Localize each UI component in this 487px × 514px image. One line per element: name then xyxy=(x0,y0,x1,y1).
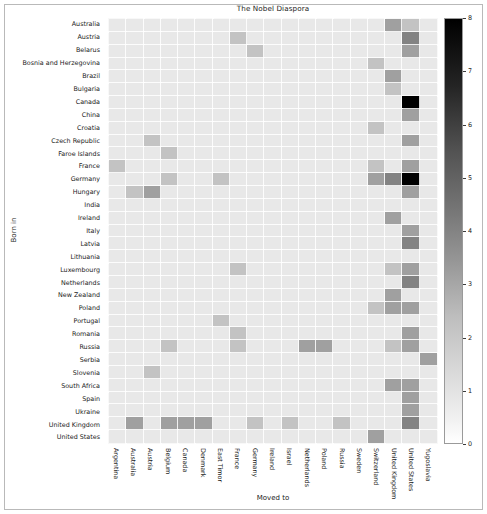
heatmap-cell[interactable] xyxy=(368,96,385,109)
heatmap-cell[interactable] xyxy=(195,430,212,443)
heatmap-cell[interactable] xyxy=(368,135,385,148)
heatmap-cell[interactable] xyxy=(333,327,350,340)
heatmap-cell[interactable] xyxy=(299,353,316,366)
heatmap-cell[interactable] xyxy=(126,58,143,71)
heatmap-cell[interactable] xyxy=(351,32,368,45)
heatmap-cell[interactable] xyxy=(144,109,161,122)
heatmap-cell[interactable] xyxy=(333,289,350,302)
heatmap-cell[interactable] xyxy=(385,340,402,353)
heatmap-cell[interactable] xyxy=(264,109,281,122)
heatmap-cell[interactable] xyxy=(299,263,316,276)
heatmap-cell[interactable] xyxy=(420,417,437,430)
heatmap-cell[interactable] xyxy=(144,366,161,379)
heatmap-cell[interactable] xyxy=(230,340,247,353)
heatmap-cell[interactable] xyxy=(178,379,195,392)
heatmap-cell[interactable] xyxy=(109,417,126,430)
heatmap-cell[interactable] xyxy=(333,58,350,71)
heatmap-cell[interactable] xyxy=(385,83,402,96)
heatmap-cell[interactable] xyxy=(161,32,178,45)
heatmap-cell[interactable] xyxy=(213,392,230,405)
heatmap-cell[interactable] xyxy=(420,122,437,135)
heatmap-cell[interactable] xyxy=(178,237,195,250)
heatmap-cell[interactable] xyxy=(402,430,419,443)
heatmap-cell[interactable] xyxy=(109,45,126,58)
heatmap-cell[interactable] xyxy=(109,340,126,353)
heatmap-cell[interactable] xyxy=(109,109,126,122)
heatmap-cell[interactable] xyxy=(230,353,247,366)
heatmap-cell[interactable] xyxy=(316,302,333,315)
heatmap-cell[interactable] xyxy=(178,70,195,83)
heatmap-cell[interactable] xyxy=(195,58,212,71)
heatmap-cell[interactable] xyxy=(230,276,247,289)
heatmap-cell[interactable] xyxy=(247,417,264,430)
heatmap-cell[interactable] xyxy=(316,276,333,289)
heatmap-cell[interactable] xyxy=(420,199,437,212)
heatmap-cell[interactable] xyxy=(333,250,350,263)
heatmap-cell[interactable] xyxy=(230,70,247,83)
heatmap-cell[interactable] xyxy=(264,186,281,199)
heatmap-cell[interactable] xyxy=(282,32,299,45)
heatmap-cell[interactable] xyxy=(351,237,368,250)
heatmap-cell[interactable] xyxy=(351,173,368,186)
heatmap-cell[interactable] xyxy=(264,135,281,148)
heatmap-cell[interactable] xyxy=(247,392,264,405)
heatmap-cell[interactable] xyxy=(195,199,212,212)
heatmap-cell[interactable] xyxy=(178,122,195,135)
heatmap-cell[interactable] xyxy=(351,276,368,289)
heatmap-cell[interactable] xyxy=(282,404,299,417)
heatmap-cell[interactable] xyxy=(161,417,178,430)
heatmap-cell[interactable] xyxy=(264,199,281,212)
heatmap-cell[interactable] xyxy=(178,327,195,340)
heatmap-cell[interactable] xyxy=(282,392,299,405)
heatmap-cell[interactable] xyxy=(213,160,230,173)
heatmap-cell[interactable] xyxy=(420,186,437,199)
heatmap-cell[interactable] xyxy=(316,58,333,71)
heatmap-cell[interactable] xyxy=(402,340,419,353)
heatmap-cell[interactable] xyxy=(109,32,126,45)
heatmap-cell[interactable] xyxy=(282,58,299,71)
heatmap-cell[interactable] xyxy=(333,392,350,405)
heatmap-cell[interactable] xyxy=(126,186,143,199)
heatmap-cell[interactable] xyxy=(178,199,195,212)
heatmap-cell[interactable] xyxy=(247,173,264,186)
heatmap-cell[interactable] xyxy=(402,392,419,405)
heatmap-cell[interactable] xyxy=(247,366,264,379)
heatmap-cell[interactable] xyxy=(178,147,195,160)
heatmap-cell[interactable] xyxy=(195,250,212,263)
heatmap-cell[interactable] xyxy=(195,379,212,392)
heatmap-cell[interactable] xyxy=(368,212,385,225)
heatmap-cell[interactable] xyxy=(299,19,316,32)
heatmap-cell[interactable] xyxy=(402,237,419,250)
heatmap-cell[interactable] xyxy=(299,327,316,340)
heatmap-cell[interactable] xyxy=(144,32,161,45)
heatmap-cell[interactable] xyxy=(333,379,350,392)
heatmap-cell[interactable] xyxy=(195,147,212,160)
heatmap-cell[interactable] xyxy=(385,417,402,430)
heatmap-cell[interactable] xyxy=(126,147,143,160)
heatmap-cell[interactable] xyxy=(402,225,419,238)
heatmap-cell[interactable] xyxy=(161,315,178,328)
heatmap-cell[interactable] xyxy=(161,199,178,212)
heatmap-cell[interactable] xyxy=(368,340,385,353)
heatmap-cell[interactable] xyxy=(282,379,299,392)
heatmap-cell[interactable] xyxy=(247,109,264,122)
heatmap-cell[interactable] xyxy=(368,430,385,443)
heatmap-cell[interactable] xyxy=(195,302,212,315)
heatmap-cell[interactable] xyxy=(351,122,368,135)
heatmap-cell[interactable] xyxy=(333,366,350,379)
heatmap-cell[interactable] xyxy=(126,19,143,32)
heatmap-cell[interactable] xyxy=(144,250,161,263)
heatmap-cell[interactable] xyxy=(126,96,143,109)
heatmap-cell[interactable] xyxy=(351,58,368,71)
heatmap-cell[interactable] xyxy=(316,315,333,328)
heatmap-cell[interactable] xyxy=(161,353,178,366)
heatmap-cell[interactable] xyxy=(109,83,126,96)
heatmap-cell[interactable] xyxy=(264,147,281,160)
heatmap-cell[interactable] xyxy=(230,160,247,173)
heatmap-cell[interactable] xyxy=(213,199,230,212)
heatmap-cell[interactable] xyxy=(195,109,212,122)
heatmap-cell[interactable] xyxy=(282,263,299,276)
heatmap-cell[interactable] xyxy=(333,186,350,199)
heatmap-cell[interactable] xyxy=(178,366,195,379)
heatmap-cell[interactable] xyxy=(282,327,299,340)
